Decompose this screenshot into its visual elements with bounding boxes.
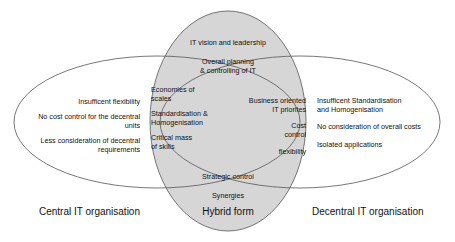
- central-label: Central IT organisation: [39, 206, 140, 217]
- decentral-item-standardisation-1: Insufficent Standardisation: [317, 96, 402, 105]
- central-item-cost-control-1: No cost control for the decentral: [38, 112, 140, 121]
- decentral-item-isolated: Isolated applications: [317, 140, 382, 149]
- overlap-left-item-standardisation-1: Standardisation &: [151, 109, 208, 118]
- overlap-right-item-flexibility: flexibility: [279, 147, 306, 156]
- overlap-left-item-economies-1: Economies of: [151, 85, 195, 94]
- hybrid-item-planning-1: Overall planning: [160, 57, 296, 66]
- overlap-right-item-cost-2: control: [284, 130, 306, 139]
- overlap-left-item-skills-1: Critical mass: [151, 133, 192, 142]
- decentral-label: Decentral IT organisation: [312, 206, 424, 217]
- hybrid-item-planning-2: & controlling of IT: [160, 66, 296, 75]
- hybrid-label: Hybrid form: [160, 206, 296, 217]
- central-item-cost-control-2: units: [125, 121, 140, 130]
- central-item-consideration-1: Less consideration of decentral: [41, 136, 141, 145]
- decentral-item-standardisation-2: and Homogenisation: [317, 105, 383, 114]
- overlap-left-item-skills-2: of skills: [151, 142, 175, 151]
- hybrid-item-synergies: Synergies: [160, 191, 296, 200]
- decentral-item-costs: No consideration of overall costs: [317, 122, 421, 131]
- central-item-flexibility: Insufficent flexibility: [78, 97, 140, 106]
- overlap-left-item-economies-2: scales: [151, 94, 171, 103]
- overlap-right-item-cost-1: Cost: [291, 121, 306, 130]
- overlap-right-item-business-1: Business oriented: [249, 96, 306, 105]
- overlap-left-item-standardisation-2: Homogenisation: [151, 118, 203, 127]
- overlap-right-item-business-2: IT priorites: [272, 105, 306, 114]
- hybrid-item-strategic-control: Strategic control: [160, 172, 296, 181]
- hybrid-item-vision: IT vision and leadership: [160, 38, 296, 47]
- central-item-consideration-2: requirements: [98, 145, 140, 154]
